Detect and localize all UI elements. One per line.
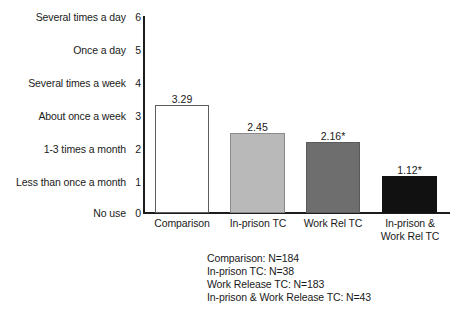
bar-value-comparison: 3.29 [155, 93, 209, 105]
y-tick-label-0: No use [93, 207, 126, 219]
y-tick-2: 1-3 times a month 2 [44, 143, 141, 155]
bar-in-prison-and-work-rel-tc [382, 176, 437, 213]
y-tick-value-6: 6 [128, 11, 141, 23]
x-category-comparison: Comparison [145, 217, 219, 230]
y-tick-1: Less than once a month 1 [16, 176, 141, 188]
bar-chart-figure: Several times a day 6 Once a day 5 Sever… [0, 0, 470, 326]
y-tick-value-5: 5 [128, 44, 141, 56]
y-tick-3: About once a week 3 [38, 110, 141, 122]
y-tick-label-4: Several times a week [28, 77, 126, 89]
bar-value-in-prison-and-work-rel-tc: 1.12* [382, 164, 437, 176]
note-comparison: Comparison: N=184 [207, 252, 371, 265]
bar-in-prison-tc [230, 133, 285, 213]
y-tick-value-4: 4 [128, 77, 141, 89]
y-tick-value-0: 0 [128, 207, 141, 219]
bar-comparison [155, 105, 209, 213]
bars-layer [143, 14, 450, 213]
y-tick-0: No use 0 [93, 207, 141, 219]
y-axis-tick-labels: Several times a day 6 Once a day 5 Sever… [0, 0, 141, 326]
y-tick-label-5: Once a day [73, 44, 126, 56]
bar-work-rel-tc [306, 142, 360, 213]
y-tick-5: Once a day 5 [73, 44, 141, 56]
y-tick-6: Several times a day 6 [36, 11, 141, 23]
y-tick-value-1: 1 [128, 176, 141, 188]
y-tick-value-3: 3 [128, 110, 141, 122]
x-category-work-rel-tc: Work Rel TC [296, 217, 370, 230]
y-tick-label-6: Several times a day [36, 11, 126, 23]
note-in-prison-tc: In-prison TC: N=38 [207, 265, 371, 278]
y-tick-value-2: 2 [128, 143, 141, 155]
sample-size-notes: Comparison: N=184 In-prison TC: N=38 Wor… [207, 252, 371, 304]
x-category-in-prison-and-work-rel-tc: In-prison & Work Rel TC [372, 217, 448, 242]
y-tick-label-2: 1-3 times a month [44, 143, 126, 155]
y-tick-4: Several times a week 4 [28, 77, 141, 89]
bar-value-work-rel-tc: 2.16* [306, 130, 360, 142]
y-tick-label-1: Less than once a month [16, 176, 126, 188]
x-category-in-prison-tc: In-prison TC [221, 217, 295, 230]
y-tick-label-3: About once a week [38, 110, 126, 122]
note-work-release-tc: Work Release TC: N=183 [207, 278, 371, 291]
note-in-prison-and-work-release-tc: In-prison & Work Release TC: N=43 [207, 291, 371, 304]
bar-value-in-prison-tc: 2.45 [230, 121, 285, 133]
